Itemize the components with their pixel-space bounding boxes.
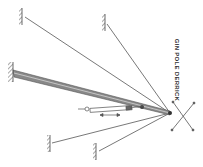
diagram-title: GIN POLE DERRICK bbox=[174, 39, 180, 101]
hook-icon bbox=[85, 107, 89, 111]
anchor-top-mid bbox=[102, 14, 105, 31]
guy-line bbox=[25, 17, 170, 113]
anchor-bottom-mid bbox=[93, 143, 96, 160]
gin-pole-derrick-diagram bbox=[0, 0, 203, 167]
swing-direction-arrows-icon bbox=[171, 101, 195, 131]
pole-apex bbox=[168, 111, 172, 115]
guy-line bbox=[99, 113, 170, 151]
anchor-bottom-left bbox=[47, 135, 50, 152]
anchor-top-left bbox=[19, 8, 22, 25]
guy-line bbox=[52, 113, 170, 143]
travel-arrow-icon bbox=[100, 114, 120, 117]
anchor-pole-base bbox=[8, 62, 13, 82]
